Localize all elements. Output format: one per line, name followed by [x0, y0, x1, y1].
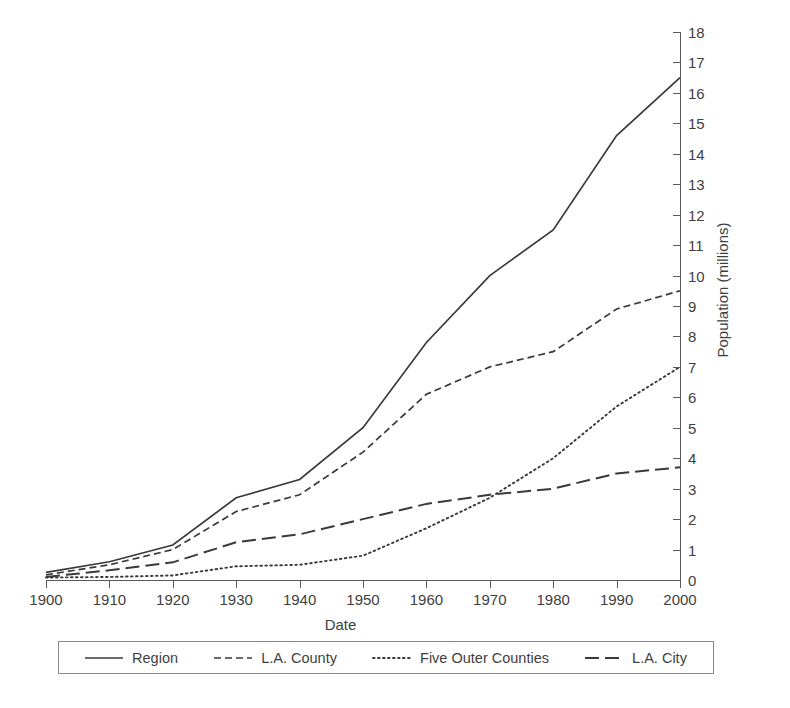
x-tick-mark: [490, 580, 491, 588]
legend-item[interactable]: Region: [85, 650, 178, 666]
chart-legend: RegionL.A. CountyFive Outer CountiesL.A.…: [58, 641, 714, 674]
series-line-region: [46, 78, 680, 573]
x-axis-label: Date: [0, 616, 681, 633]
y-tick-mark: [673, 123, 681, 124]
x-tick-label: 1990: [600, 592, 633, 607]
legend-label: L.A. City: [632, 650, 687, 666]
y-tick-label: 2: [688, 512, 696, 527]
x-tick-mark: [300, 580, 301, 588]
x-tick-mark: [46, 580, 47, 588]
x-tick-mark: [617, 580, 618, 588]
y-tick-mark: [673, 336, 681, 337]
y-tick-mark: [673, 32, 681, 33]
y-tick-label: 13: [688, 177, 705, 192]
x-tick-label: 1910: [93, 592, 126, 607]
y-tick-mark: [673, 519, 681, 520]
x-tick-label: 1920: [156, 592, 189, 607]
y-tick-label: 16: [688, 85, 705, 100]
x-tick-label: 1940: [283, 592, 316, 607]
y-tick-mark: [673, 397, 681, 398]
x-tick-label: 1930: [220, 592, 253, 607]
legend-label: L.A. County: [261, 650, 337, 666]
y-tick-label: 18: [688, 25, 705, 40]
y-tick-label: 9: [688, 299, 696, 314]
y-tick-label: 17: [688, 55, 705, 70]
y-tick-label: 6: [688, 390, 696, 405]
chart-figure: 0123456789101112131415161718 19001910192…: [0, 0, 790, 708]
series-line-l-a-county: [46, 291, 680, 575]
legend-label: Five Outer Counties: [420, 650, 549, 666]
x-tick-mark: [553, 580, 554, 588]
y-tick-mark: [673, 93, 681, 94]
y-tick-label: 8: [688, 329, 696, 344]
y-tick-mark: [673, 489, 681, 490]
y-tick-mark: [673, 62, 681, 63]
y-tick-mark: [673, 184, 681, 185]
y-tick-label: 5: [688, 420, 696, 435]
y-tick-mark: [673, 458, 681, 459]
y-tick-label: 14: [688, 146, 705, 161]
series-line-five-outer-counties: [46, 367, 680, 578]
x-tick-label: 1960: [410, 592, 443, 607]
y-tick-label: 7: [688, 359, 696, 374]
legend-swatch-dotted: [373, 653, 411, 663]
y-tick-mark: [673, 245, 681, 246]
y-axis-label: Population (millions): [714, 222, 731, 357]
y-tick-label: 4: [688, 451, 696, 466]
y-tick-label: 3: [688, 481, 696, 496]
y-tick-label: 1: [688, 542, 696, 557]
y-tick-label: 12: [688, 207, 705, 222]
y-tick-mark: [673, 428, 681, 429]
x-tick-mark: [363, 580, 364, 588]
legend-label: Region: [132, 650, 178, 666]
y-tick-label: 0: [688, 573, 696, 588]
y-tick-mark: [673, 276, 681, 277]
x-tick-label: 2000: [663, 592, 696, 607]
legend-swatch-solid: [85, 653, 123, 663]
x-tick-mark: [680, 580, 681, 588]
legend-swatch-dashed: [214, 653, 252, 663]
y-tick-mark: [673, 550, 681, 551]
y-tick-label: 15: [688, 116, 705, 131]
x-tick-label: 1950: [346, 592, 379, 607]
x-tick-label: 1980: [537, 592, 570, 607]
y-tick-label: 11: [688, 238, 704, 253]
y-tick-mark: [673, 367, 681, 368]
series-line-l-a-city: [46, 467, 680, 577]
x-tick-mark: [109, 580, 110, 588]
x-tick-label: 1970: [473, 592, 506, 607]
legend-item[interactable]: Five Outer Counties: [373, 650, 549, 666]
x-tick-mark: [173, 580, 174, 588]
legend-item[interactable]: L.A. City: [585, 650, 687, 666]
y-tick-label: 10: [688, 268, 705, 283]
x-tick-label: 1900: [29, 592, 62, 607]
y-tick-mark: [673, 154, 681, 155]
x-tick-mark: [426, 580, 427, 588]
legend-item[interactable]: L.A. County: [214, 650, 337, 666]
x-tick-mark: [236, 580, 237, 588]
y-tick-mark: [673, 215, 681, 216]
legend-swatch-long-dashed: [585, 653, 623, 663]
y-tick-mark: [673, 306, 681, 307]
